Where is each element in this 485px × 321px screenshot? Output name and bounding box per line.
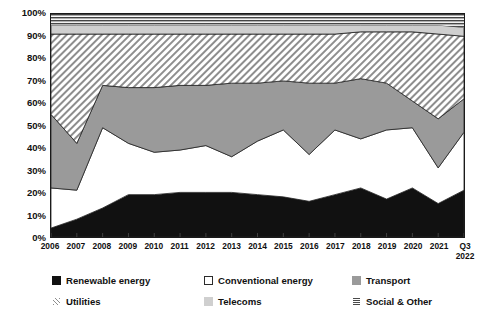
y-tick-label: 90% [27, 31, 46, 41]
stacked-area-plot [51, 14, 464, 237]
legend-item-utilities[interactable]: Utilities [52, 291, 101, 311]
x-tick-label: 2012 [196, 241, 215, 251]
legend-row-1: Renewable energy Conventional energy Tra… [52, 270, 472, 290]
y-axis: 0%10%20%30%40%50%60%70%80%90%100% [0, 0, 50, 260]
y-tick-label: 10% [27, 211, 46, 221]
x-tick-label: 2016 [300, 241, 319, 251]
x-tick-label: 2006 [41, 241, 60, 251]
plot-area [50, 13, 465, 238]
x-tick-label: 2017 [326, 241, 345, 251]
legend-item-social-other[interactable]: Social & Other [352, 291, 432, 311]
chart-screenshot: 0%10%20%30%40%50%60%70%80%90%100% 200620… [0, 0, 485, 321]
legend-item-telecoms[interactable]: Telecoms [204, 291, 262, 311]
y-tick-label: 60% [27, 98, 46, 108]
legend-label: Telecoms [218, 296, 262, 307]
x-tick-label: 2020 [404, 241, 423, 251]
x-tick-label: 2011 [171, 241, 189, 251]
y-tick-label: 40% [27, 143, 46, 153]
legend-row-2: Utilities Telecoms Social & Other [52, 291, 472, 311]
y-tick-label: 30% [27, 166, 46, 176]
legend-label: Social & Other [366, 296, 432, 307]
x-tick-label: 2009 [118, 241, 137, 251]
x-tick-label: 2018 [352, 241, 371, 251]
y-tick-label: 100% [22, 8, 46, 18]
legend-label: Utilities [66, 296, 101, 307]
legend-label: Renewable energy [66, 275, 150, 286]
x-tick-label: 2010 [144, 241, 163, 251]
x-axis: 2006200720082009201020112012201320142015… [0, 241, 485, 269]
y-tick-label: 70% [27, 76, 46, 86]
filled-square-lightgray-icon [204, 297, 213, 306]
diagonal-hatch-square-icon [52, 297, 61, 306]
horizontal-lines-square-icon [352, 297, 361, 306]
x-tick-label: 2015 [274, 241, 293, 251]
chart-legend: Renewable energy Conventional energy Tra… [52, 270, 472, 316]
filled-square-black-icon [52, 276, 61, 285]
y-tick-label: 20% [27, 188, 46, 198]
x-tick-label: 2019 [378, 241, 397, 251]
open-square-white-icon [204, 276, 213, 285]
legend-item-conventional-energy[interactable]: Conventional energy [204, 270, 313, 290]
filled-square-gray-icon [352, 276, 361, 285]
legend-item-transport[interactable]: Transport [352, 270, 410, 290]
y-tick-label: 50% [27, 121, 46, 131]
x-tick-label: 2014 [248, 241, 267, 251]
x-tick-label: 2021 [430, 241, 449, 251]
x-tick-label: Q32022 [456, 241, 475, 261]
legend-item-renewable-energy[interactable]: Renewable energy [52, 270, 150, 290]
x-tick-label: 2013 [222, 241, 241, 251]
y-tick-label: 80% [27, 53, 46, 63]
legend-label: Conventional energy [218, 275, 313, 286]
x-tick-label: 2007 [67, 241, 86, 251]
legend-label: Transport [366, 275, 410, 286]
x-tick-label: 2008 [93, 241, 112, 251]
